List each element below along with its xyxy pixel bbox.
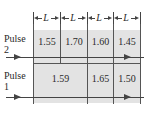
pulse2-cell: 1.60 (88, 36, 113, 48)
pulse2-label: Pulse 2 (4, 33, 26, 55)
dim-arrow-right-icon (82, 16, 86, 20)
arrow-right-icon (14, 54, 21, 60)
dim-label: L (41, 12, 51, 24)
dim-arrow-right-icon (108, 16, 112, 20)
arrow-right-icon (14, 94, 21, 100)
dim-arrow-right-icon (135, 16, 139, 20)
pulse2-cell: 1.45 (114, 36, 140, 48)
divider (33, 63, 140, 64)
dim-arrow-right-icon (55, 16, 59, 20)
pulse1-label: Pulse 1 (4, 70, 26, 92)
pulse2-cell: 1.55 (34, 36, 60, 48)
pulse1-cell: 1.50 (114, 73, 140, 85)
dim-label: L (94, 12, 104, 24)
dim-tick (140, 12, 141, 24)
pulse1-label-line1: Pulse (4, 70, 26, 81)
pulse1-cell: 1.59 (34, 73, 87, 85)
pulse2-cell: 1.70 (61, 36, 87, 48)
divider (140, 24, 141, 104)
pulse2-label-line1: Pulse (4, 33, 26, 44)
pulse1-cell: 1.65 (88, 73, 113, 85)
pulse1-label-line2: 1 (4, 81, 26, 92)
dim-label: L (68, 12, 78, 24)
arrow-right-icon (124, 94, 131, 100)
dim-label: L (121, 12, 131, 24)
arrow-right-icon (124, 54, 131, 60)
